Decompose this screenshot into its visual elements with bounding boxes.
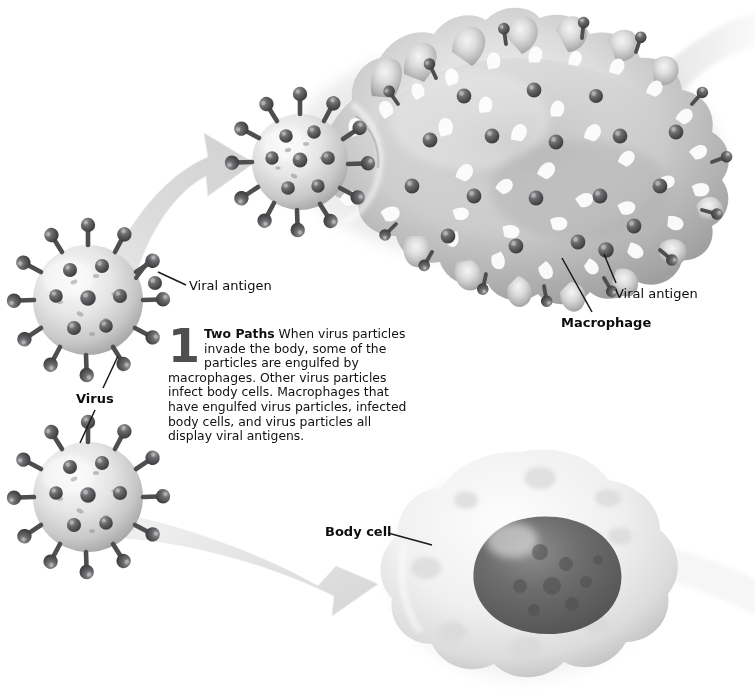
label-virus: Virus (76, 391, 114, 406)
caption-heading: Two Paths (204, 326, 275, 341)
body-cell-nucleus (473, 517, 621, 634)
caption-text: Two Paths When virus particles invade th… (168, 327, 408, 444)
label-body-cell: Body cell (325, 524, 392, 539)
virus-particle-bottom (7, 415, 171, 580)
labeled-viral-antigen-virus (148, 276, 162, 290)
labeled-viral-antigen-macrophage (598, 242, 614, 258)
leader-virus-top (103, 356, 118, 388)
label-viral-antigen-left: Viral antigen (189, 278, 272, 293)
label-macrophage: Macrophage (561, 315, 651, 330)
macrophage (225, 8, 734, 312)
caption-block: 1 Two Paths When virus particles invade … (168, 327, 408, 444)
figure-two-paths: Viral antigen Viral antigen Macrophage V… (0, 0, 755, 690)
caption-step-number: 1 (168, 329, 198, 363)
caption-sentence: When virus particles invade the body, so… (168, 326, 406, 443)
body-cell (381, 450, 678, 680)
label-viral-antigen-right: Viral antigen (615, 286, 698, 301)
leader-viral-antigen-left (158, 272, 186, 285)
